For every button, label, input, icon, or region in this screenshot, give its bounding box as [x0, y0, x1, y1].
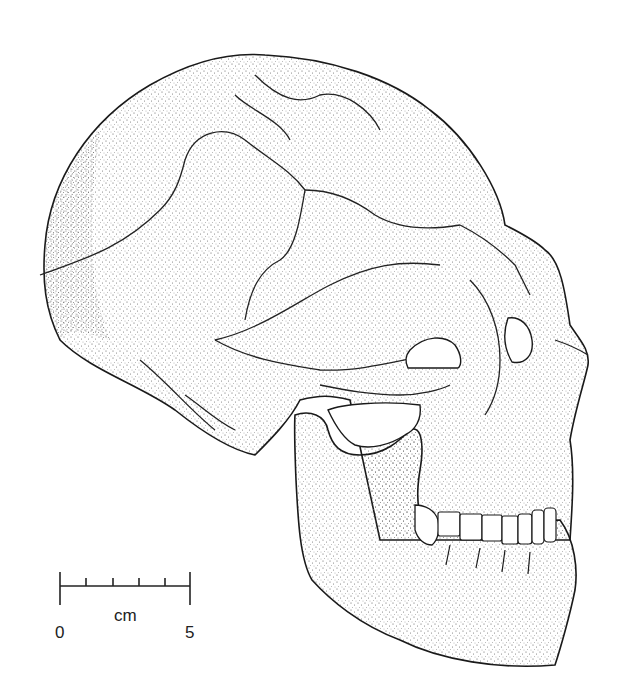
scale-start-label: 0 [55, 624, 64, 641]
scale-unit-label: cm [114, 607, 137, 624]
scale-bar [60, 572, 190, 605]
scale-end-label: 5 [185, 624, 194, 641]
skull-illustration [0, 0, 618, 694]
